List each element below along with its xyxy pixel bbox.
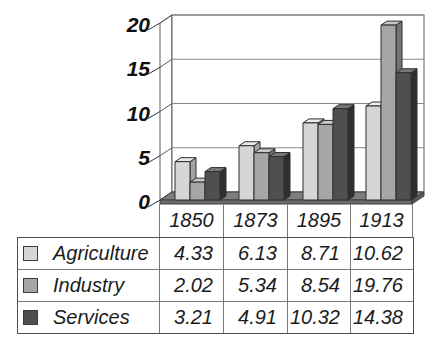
- category-label: 1873: [223, 204, 287, 237]
- value-cell: 14.38: [350, 301, 413, 333]
- value-cell: 6.13: [223, 238, 287, 269]
- value-cell: 3.21: [159, 301, 223, 333]
- value-cell: 8.54: [287, 269, 350, 301]
- bar-services-1850: [205, 168, 226, 200]
- value-cell: 4.33: [159, 238, 223, 269]
- series-legend-cell: Services: [18, 301, 159, 333]
- category-label: 1895: [287, 204, 350, 237]
- series-name: Industry: [53, 274, 124, 297]
- bar-services-1873: [269, 153, 290, 200]
- x-axis-category-row: 1850187318951913: [159, 204, 415, 237]
- series-name: Services: [53, 306, 130, 329]
- value-cell: 10.32: [287, 301, 350, 333]
- bar-services-1895: [333, 105, 354, 200]
- category-label: 1913: [350, 204, 413, 237]
- series-legend-cell: Agriculture: [18, 238, 159, 269]
- series-name: Agriculture: [53, 242, 149, 265]
- legend-swatch-icon: [23, 246, 38, 261]
- y-axis-label: 20: [126, 13, 151, 36]
- value-cell: 10.62: [350, 238, 413, 269]
- chart-with-data-table: 05101520 1850187318951913 Agriculture4.3…: [0, 0, 441, 345]
- series-legend-cell: Industry: [18, 269, 159, 301]
- y-axis-label: 10: [127, 102, 151, 125]
- value-cell: 8.71: [287, 238, 350, 269]
- legend-swatch-icon: [23, 278, 38, 293]
- chart-data-table: Agriculture4.336.138.7110.62Industry2.02…: [17, 237, 414, 334]
- y-axis-label: 5: [138, 146, 150, 169]
- y-axis-label: 15: [127, 57, 151, 80]
- value-cell: 19.76: [350, 269, 413, 301]
- bar-services-1913: [396, 69, 417, 200]
- value-cell: 5.34: [223, 269, 287, 301]
- legend-swatch-icon: [23, 310, 38, 325]
- value-cell: 2.02: [159, 269, 223, 301]
- value-cell: 4.91: [223, 301, 287, 333]
- y-axis-label: 0: [138, 190, 150, 213]
- category-label: 1850: [159, 204, 223, 237]
